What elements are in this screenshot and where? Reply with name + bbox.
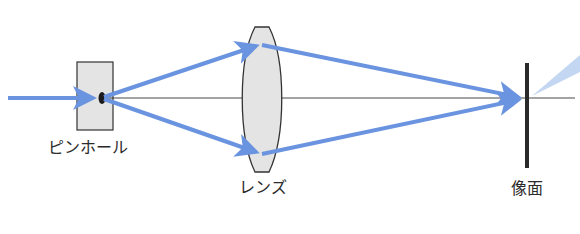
upper-ray-to-image [262, 45, 518, 97]
image-plane-label: 像面 [511, 181, 543, 197]
image-plane-screen [525, 63, 529, 168]
lower-ray-to-image [262, 100, 518, 154]
scattered-light-cone [532, 55, 580, 96]
lens-label: レンズ [239, 180, 287, 196]
optics-diagram [0, 0, 580, 234]
upper-ray-to-lens [104, 46, 256, 97]
pinhole-label: ピンホール [48, 140, 128, 156]
